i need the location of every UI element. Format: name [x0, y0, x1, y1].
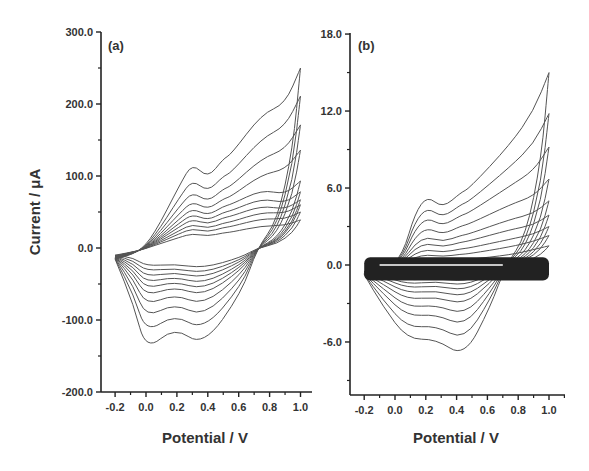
panel-b: 18.012.06.00.0-6.0 -0.20.00.20.40.60.81.…: [321, 28, 565, 446]
panel-b-label: (b): [358, 38, 375, 53]
figure: 300.0200.0100.00.0-100.0-200.0 -0.20.00.…: [0, 0, 589, 471]
panel-a-y-ticks: 300.0200.0100.00.0-100.0-200.0: [62, 26, 101, 398]
panel-a-label: (a): [108, 38, 124, 53]
panel-a-x-ticks: -0.20.00.20.40.60.81.0: [106, 392, 309, 413]
x-tick-label: 1.0: [293, 401, 308, 413]
x-tick-label: 0.8: [262, 401, 277, 413]
y-tick-label: 6.0: [327, 182, 342, 194]
panel-a-y-axis-title: Current / μA: [26, 168, 43, 255]
panel-b-x-ticks: -0.20.00.20.40.60.81.0: [355, 395, 565, 416]
y-tick-label: 300.0: [65, 26, 93, 38]
y-tick-label: 0.0: [78, 242, 93, 254]
panel-a: 300.0200.0100.00.0-100.0-200.0 -0.20.00.…: [26, 26, 312, 446]
x-tick-label: 0.6: [480, 404, 495, 416]
y-tick-label: -6.0: [323, 336, 342, 348]
dense-cycle-band: [364, 257, 549, 280]
x-tick-label: 0.0: [138, 401, 153, 413]
x-tick-label: -0.2: [355, 404, 374, 416]
x-tick-label: -0.2: [106, 401, 125, 413]
x-tick-label: 0.8: [511, 404, 526, 416]
y-tick-label: 12.0: [321, 105, 342, 117]
y-tick-label: 200.0: [65, 98, 93, 110]
panel-b-y-ticks: 18.012.06.00.0-6.0: [321, 28, 350, 380]
panel-b-curves: [364, 73, 549, 351]
cv-curve: [115, 181, 300, 293]
x-tick-label: 0.4: [200, 401, 216, 413]
panel-a-x-axis-title: Potential / V: [162, 429, 248, 446]
y-tick-label: -100.0: [62, 314, 93, 326]
x-tick-label: 0.2: [418, 404, 433, 416]
y-tick-label: -200.0: [62, 386, 93, 398]
x-tick-label: 1.0: [541, 404, 556, 416]
cv-curve: [364, 201, 549, 302]
y-tick-label: 18.0: [321, 28, 342, 40]
panel-b-x-axis-title: Potential / V: [413, 429, 499, 446]
x-tick-label: 0.0: [387, 404, 402, 416]
cv-curve: [115, 68, 300, 343]
x-tick-label: 0.4: [449, 404, 465, 416]
panel-a-curves: [115, 68, 300, 343]
x-tick-label: 0.2: [169, 401, 184, 413]
cv-curve: [364, 73, 549, 351]
y-tick-label: 0.0: [327, 259, 342, 271]
y-tick-label: 100.0: [65, 170, 93, 182]
cv-curve: [115, 96, 300, 327]
x-tick-label: 0.6: [231, 401, 246, 413]
